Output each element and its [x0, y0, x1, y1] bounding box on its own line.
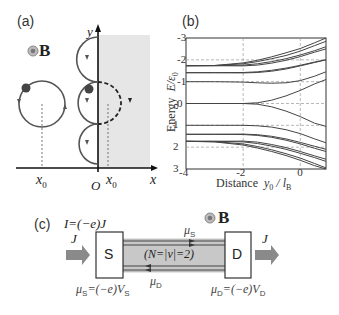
orbit-arrow-icon — [63, 104, 67, 109]
flux-in-arrow-icon — [66, 245, 90, 265]
x0-left-label: x0 — [36, 172, 47, 190]
y-tick-label: -3 — [177, 31, 186, 43]
x-axis-arrow-icon — [151, 165, 158, 171]
x-tick-label: -4 — [179, 166, 188, 178]
electron-edge-icon — [85, 85, 94, 94]
field-label-c: B — [218, 208, 229, 228]
y-axis-arrow-icon — [95, 24, 101, 32]
mu-drain-edge-label: μD — [150, 274, 162, 290]
flux-in-label: J — [71, 231, 77, 247]
panel-b-label: (b) — [182, 13, 199, 29]
y-tick-label: -2 — [177, 53, 186, 65]
y-tick-label: 3 — [173, 162, 179, 174]
flux-out-label: J — [262, 231, 268, 247]
source-label: S — [104, 246, 113, 262]
x-axis-label: x — [150, 172, 156, 188]
x-tick-label: 0 — [297, 166, 303, 178]
skip-arrow-icon — [85, 55, 89, 60]
channel-label: (N=|ν|=2) — [144, 247, 194, 262]
skipping-orbit-top — [77, 37, 98, 82]
x0-right-label: x0 — [106, 172, 117, 190]
source-potential-equation: μS=(−e)VS — [76, 282, 130, 298]
skip-arrow-icon — [85, 140, 89, 145]
y-tick-label: 2 — [173, 140, 179, 152]
shaded-region — [98, 35, 150, 168]
orbit-arrow-icon — [17, 99, 21, 104]
x-axis-title: Distance y0 / lB — [216, 176, 291, 192]
origin-label: O — [91, 178, 100, 194]
field-label-a: B — [39, 41, 50, 61]
y-axis-label: y — [87, 24, 93, 40]
drain-label: D — [232, 246, 242, 262]
y-axis-title: Energy E/ε0 — [164, 72, 180, 132]
drain-potential-equation: μD=(−e)VD — [211, 282, 265, 298]
energy-spectrum-chart — [170, 30, 339, 175]
skipping-orbit-bottom — [79, 124, 98, 164]
flux-out-arrow-icon — [255, 245, 279, 265]
mu-source-edge-label: μS — [184, 223, 195, 239]
skip-arrow-icon — [85, 98, 89, 103]
electron-free-icon — [22, 84, 31, 93]
